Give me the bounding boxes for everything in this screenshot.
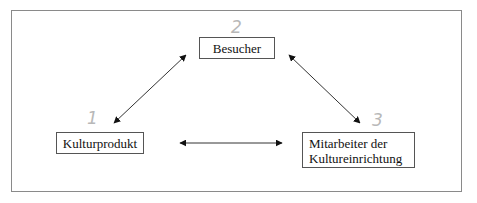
node-kulturprodukt: Kulturprodukt xyxy=(56,132,144,154)
node-besucher: Besucher xyxy=(199,37,275,59)
node-label-line-1: Mitarbeiter der xyxy=(309,136,408,151)
handwritten-number-3: 3 xyxy=(372,112,383,129)
arrow-kulturprodukt-besucher xyxy=(114,55,186,123)
node-label-line-2: Kultureinrichtung xyxy=(309,151,408,166)
arrow-besucher-mitarbeiter xyxy=(289,55,360,123)
node-label: Kulturprodukt xyxy=(63,136,137,151)
node-mitarbeiter: Mitarbeiter der Kultureinrichtung xyxy=(302,132,415,168)
node-label: Besucher xyxy=(213,41,261,56)
handwritten-number-1: 1 xyxy=(87,110,98,127)
handwritten-number-2: 2 xyxy=(231,19,242,36)
